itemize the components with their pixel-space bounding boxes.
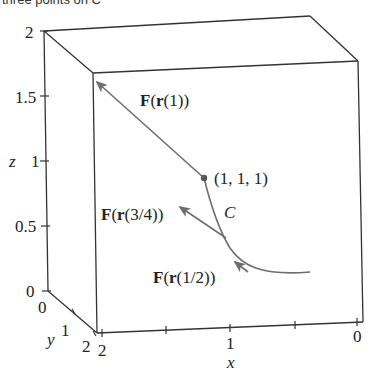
y-tick-0: 0 (38, 298, 47, 317)
label-f-r-1-2: F(r(1/2)) (153, 268, 215, 287)
x-tick-1: 1 (226, 334, 235, 353)
x-tick-0: 0 (353, 327, 362, 346)
caption-fragment: three points on C (2, 0, 101, 7)
y-axis-label: y (45, 330, 55, 349)
z-axis-label: z (8, 152, 16, 171)
curve-c (204, 178, 310, 273)
y-axis-tick-labels: 0 1 2 (38, 298, 91, 356)
vector-f-r-3-4 (180, 207, 226, 238)
z-tick-0.5: 0.5 (15, 217, 36, 236)
z-axis-ticks (40, 31, 51, 291)
z-tick-1.5: 1.5 (15, 88, 36, 107)
x-axis-label: x (226, 353, 235, 372)
z-tick-2: 2 (25, 23, 34, 42)
z-axis-tick-labels: 0 0.5 1 1.5 2 (15, 23, 40, 301)
z-tick-1: 1 (31, 152, 40, 171)
curve-label: C (224, 203, 236, 222)
label-f-r-1: F(r(1)) (140, 91, 189, 110)
z-tick-0: 0 (26, 282, 35, 301)
y-tick-1: 1 (61, 321, 70, 340)
label-f-r-3-4: F(r(3/4)) (101, 205, 163, 224)
x-tick-2: 2 (98, 341, 107, 360)
point-label: (1, 1, 1) (214, 169, 268, 188)
y-tick-2: 2 (82, 337, 91, 356)
vector-field-diagram: three points on C 0 0.5 1 1.5 2 z (0, 0, 379, 388)
